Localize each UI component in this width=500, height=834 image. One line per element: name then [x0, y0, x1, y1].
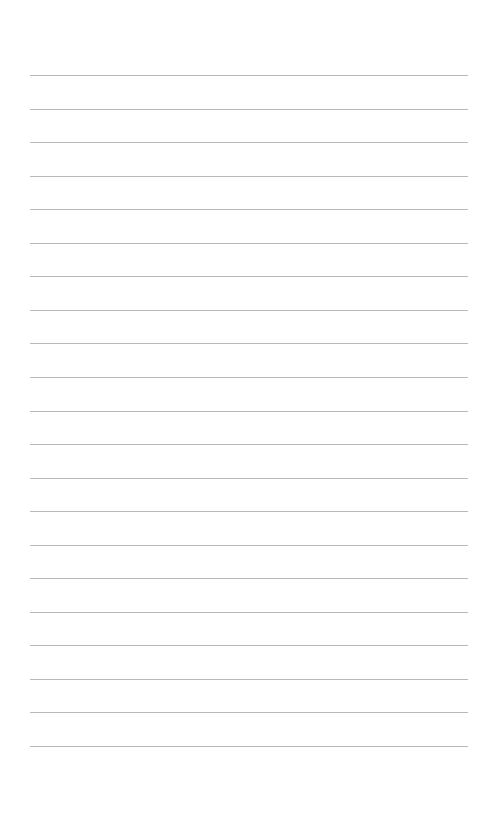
ruled-line: [30, 679, 468, 680]
ruled-line: [30, 444, 468, 445]
ruled-line: [30, 209, 468, 210]
ruled-line: [30, 645, 468, 646]
ruled-line: [30, 75, 468, 76]
ruled-line: [30, 545, 468, 546]
ruled-line: [30, 176, 468, 177]
ruled-line: [30, 411, 468, 412]
ruled-line: [30, 343, 468, 344]
ruled-line: [30, 310, 468, 311]
ruled-line: [30, 612, 468, 613]
ruled-line: [30, 243, 468, 244]
lined-paper-page: [0, 0, 500, 834]
ruled-line: [30, 377, 468, 378]
ruled-line: [30, 712, 468, 713]
ruled-line: [30, 142, 468, 143]
ruled-line: [30, 511, 468, 512]
ruled-line: [30, 578, 468, 579]
ruled-line: [30, 478, 468, 479]
ruled-line: [30, 746, 468, 747]
ruled-line: [30, 109, 468, 110]
ruled-line: [30, 276, 468, 277]
